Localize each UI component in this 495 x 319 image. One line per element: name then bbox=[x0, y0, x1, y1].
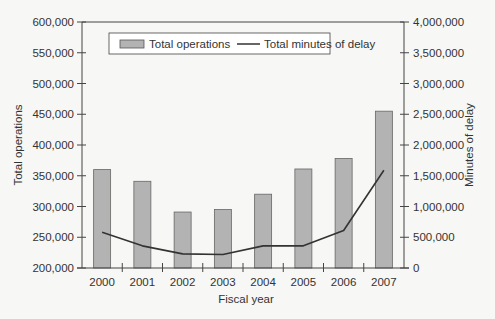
y-axis-label: Total operations bbox=[12, 104, 24, 185]
bar-2005 bbox=[295, 169, 312, 268]
x-tick-label: 2007 bbox=[371, 276, 397, 288]
y-tick-label: 600,000 bbox=[32, 16, 74, 28]
y2-tick-label: 1,000,000 bbox=[413, 201, 464, 213]
x-tick-label: 2005 bbox=[291, 276, 317, 288]
bar-2006 bbox=[335, 159, 352, 268]
chart: 200,000250,000300,000350,000400,000450,0… bbox=[0, 0, 495, 319]
legend: Total operations Total minutes of delay bbox=[109, 33, 375, 54]
legend-line-label: Total minutes of delay bbox=[264, 38, 375, 50]
x-tick-label: 2004 bbox=[250, 276, 276, 288]
x-tick-label: 2000 bbox=[89, 276, 115, 288]
x-tick-label: 2006 bbox=[331, 276, 357, 288]
bar-2007 bbox=[375, 111, 392, 268]
y2-tick-label: 1,500,000 bbox=[413, 170, 464, 182]
y2-tick-label: 3,000,000 bbox=[413, 78, 464, 90]
y-tick-label: 500,000 bbox=[32, 78, 74, 90]
y-tick-label: 550,000 bbox=[32, 47, 74, 59]
bar-2003 bbox=[214, 210, 231, 268]
y2-tick-label: 3,500,000 bbox=[413, 47, 464, 59]
x-tick-label: 2002 bbox=[170, 276, 196, 288]
y2-tick-label: 500,000 bbox=[413, 231, 455, 243]
x-tick-label: 2003 bbox=[210, 276, 236, 288]
bar-2001 bbox=[134, 181, 151, 268]
bar-2002 bbox=[174, 212, 191, 268]
y-tick-label: 450,000 bbox=[32, 108, 74, 120]
x-tick-label: 2001 bbox=[130, 276, 156, 288]
y-tick-label: 200,000 bbox=[32, 262, 74, 274]
y2-tick-label: 2,500,000 bbox=[413, 108, 464, 120]
y2-tick-label: 2,000,000 bbox=[413, 139, 464, 151]
legend-bar-label: Total operations bbox=[149, 38, 230, 50]
y-tick-label: 400,000 bbox=[32, 139, 74, 151]
y2-axis-label: Minutes of delay bbox=[463, 103, 475, 187]
x-axis-label: Fiscal year bbox=[218, 293, 274, 305]
legend-bar-swatch bbox=[120, 40, 144, 48]
y2-tick-label: 0 bbox=[413, 262, 419, 274]
y-tick-label: 300,000 bbox=[32, 201, 74, 213]
y-tick-label: 350,000 bbox=[32, 170, 74, 182]
bar-2000 bbox=[94, 170, 111, 268]
y2-tick-label: 4,000,000 bbox=[413, 16, 464, 28]
y-tick-label: 250,000 bbox=[32, 231, 74, 243]
bar-2004 bbox=[255, 194, 272, 268]
